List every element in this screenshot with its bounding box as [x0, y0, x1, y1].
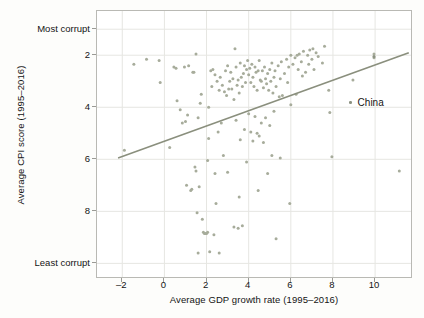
- data-point: [274, 69, 277, 72]
- data-point: [227, 88, 230, 91]
- data-point: [195, 170, 198, 173]
- plot-area: China: [96, 10, 412, 278]
- data-point: [270, 154, 273, 157]
- data-point: [212, 233, 215, 236]
- data-point: [226, 64, 229, 67]
- data-point: [243, 64, 246, 67]
- data-point: [168, 146, 171, 149]
- data-point: [239, 138, 242, 141]
- x-tick-mark: [163, 278, 164, 282]
- data-point: [223, 90, 226, 93]
- data-point: [195, 52, 198, 55]
- data-point: [252, 85, 255, 88]
- data-point: [218, 89, 221, 92]
- legend-marker-china: [349, 101, 352, 104]
- x-tick-mark: [248, 278, 249, 282]
- data-point: [398, 170, 401, 173]
- y-tick-label: Most corrupt: [37, 23, 90, 34]
- data-point: [250, 63, 253, 66]
- data-point: [258, 134, 261, 137]
- gridlines: [97, 11, 412, 278]
- data-point: [272, 110, 275, 113]
- x-tick-mark: [206, 278, 207, 282]
- data-point: [196, 211, 199, 214]
- data-point: [278, 95, 281, 98]
- data-point: [266, 72, 269, 75]
- x-axis-title: Average GDP growth rate (1995–2016): [96, 294, 412, 305]
- data-point: [272, 76, 275, 79]
- data-point: [262, 86, 265, 89]
- data-point: [240, 76, 243, 79]
- data-point: [294, 56, 297, 59]
- data-point: [193, 166, 196, 169]
- data-point: [256, 89, 259, 92]
- data-point: [258, 59, 261, 62]
- data-point: [192, 71, 195, 74]
- data-point: [241, 224, 244, 227]
- data-point: [158, 59, 161, 62]
- data-point: [241, 85, 244, 88]
- data-point: [197, 116, 200, 119]
- data-point: [176, 99, 179, 102]
- data-point: [237, 227, 240, 230]
- x-tick-mark: [290, 278, 291, 282]
- data-point: [217, 130, 220, 133]
- data-point: [279, 77, 282, 80]
- data-point: [210, 85, 213, 88]
- data-point: [249, 81, 252, 84]
- legend-label-china: China: [358, 97, 384, 108]
- data-point: [328, 111, 331, 114]
- data-point: [275, 237, 278, 240]
- data-point: [287, 65, 290, 68]
- data-point: [312, 68, 315, 71]
- data-point: [216, 80, 219, 83]
- data-point: [270, 62, 273, 65]
- data-point: [288, 202, 291, 205]
- data-point: [224, 69, 227, 72]
- data-point: [228, 80, 231, 83]
- data-point: [235, 119, 238, 122]
- data-point: [232, 98, 235, 101]
- data-point: [232, 225, 235, 228]
- data-point: [198, 185, 201, 188]
- data-point: [207, 106, 210, 109]
- plot-canvas: [97, 11, 412, 278]
- data-point: [179, 108, 182, 111]
- data-point: [256, 132, 259, 135]
- data-point: [181, 121, 184, 124]
- data-point: [298, 52, 301, 55]
- data-point: [271, 91, 274, 94]
- data-point: [289, 103, 292, 106]
- data-point: [297, 68, 300, 71]
- data-point: [275, 85, 278, 88]
- data-point: [219, 76, 222, 79]
- x-tick-mark: [332, 278, 333, 282]
- data-point: [233, 47, 236, 50]
- data-point: [185, 184, 188, 187]
- x-tick-mark: [374, 278, 375, 282]
- data-point: [187, 64, 190, 67]
- data-point: [245, 68, 248, 71]
- data-point-china: [373, 55, 376, 58]
- data-point: [213, 73, 216, 76]
- data-point: [327, 89, 330, 92]
- data-point: [254, 115, 257, 118]
- data-point: [231, 77, 234, 80]
- data-point: [218, 251, 221, 254]
- data-point: [186, 114, 189, 117]
- data-point: [159, 81, 162, 84]
- data-point: [289, 54, 292, 57]
- data-point: [267, 89, 270, 92]
- data-point: [238, 196, 241, 199]
- data-point: [311, 47, 314, 50]
- data-point: [307, 63, 310, 66]
- data-point: [265, 82, 268, 85]
- data-point: [300, 60, 303, 63]
- data-point: [306, 54, 309, 57]
- data-point: [183, 65, 186, 68]
- data-point: [315, 51, 318, 54]
- data-point: [132, 63, 135, 66]
- data-point: [317, 55, 320, 58]
- data-point: [184, 120, 187, 123]
- data-point: [244, 81, 247, 84]
